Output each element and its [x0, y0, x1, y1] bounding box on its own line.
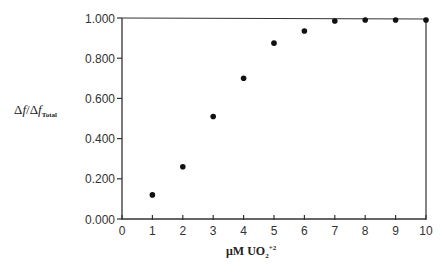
data-point — [150, 192, 156, 198]
plot-axes — [122, 18, 426, 219]
x-tick-label: 6 — [301, 224, 308, 238]
x-tick-label: 3 — [210, 224, 217, 238]
top-border-line — [122, 18, 426, 19]
delta-symbol: Δ — [30, 102, 38, 117]
data-point — [302, 28, 308, 34]
data-point — [423, 17, 429, 23]
y-tick-label: 0.200 — [85, 172, 115, 186]
scatter-chart: 0.0000.2000.4000.6000.8001.000 012345678… — [0, 0, 446, 275]
data-point — [271, 40, 277, 46]
data-point — [210, 114, 216, 120]
x-label-main: μM UO — [226, 244, 265, 258]
x-tick-label: 0 — [119, 224, 126, 238]
y-tick-label: 0.400 — [85, 132, 115, 146]
y-label-subscript: Total — [42, 111, 57, 119]
x-tick-label: 7 — [331, 224, 338, 238]
x-tick-label: 8 — [362, 224, 369, 238]
y-tick-label: 0.600 — [85, 92, 115, 106]
x-tick-label: 1 — [149, 224, 156, 238]
y-tick-label: 0.000 — [85, 213, 115, 227]
data-point — [180, 164, 186, 170]
y-axis-ticks: 0.0000.2000.4000.6000.8001.000 — [85, 12, 122, 227]
y-tick-label: 0.800 — [85, 52, 115, 66]
data-point — [393, 17, 399, 23]
x-tick-label: 2 — [179, 224, 186, 238]
x-tick-label: 4 — [240, 224, 247, 238]
x-tick-label: 5 — [271, 224, 278, 238]
x-label-superscript: +2 — [269, 244, 277, 252]
x-tick-label: 10 — [419, 224, 433, 238]
data-point — [332, 18, 338, 24]
x-axis-title: μM UO2+2 — [226, 244, 276, 260]
y-axis-title: Δf/ΔfTotal — [14, 102, 57, 119]
data-points — [150, 17, 429, 197]
y-tick-label: 1.000 — [85, 12, 115, 26]
x-label-subscript: 2 — [265, 252, 269, 260]
data-point — [241, 76, 247, 82]
x-tick-label: 9 — [392, 224, 399, 238]
data-point — [362, 17, 368, 23]
